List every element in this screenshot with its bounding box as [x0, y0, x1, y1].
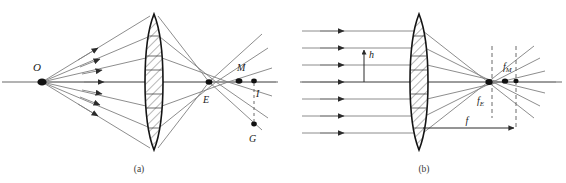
label-I: I [255, 88, 260, 99]
lens-a [145, 14, 163, 150]
spherical-aberration-figure: O E M I G (a) [0, 0, 566, 183]
label-fE-sub: E [479, 100, 485, 108]
label-fM-sub: M [505, 66, 513, 74]
focus-point-fM [502, 78, 508, 83]
label-E: E [202, 94, 209, 105]
label-M: M [236, 62, 246, 73]
lens-b [410, 14, 428, 150]
label-h: h [369, 49, 374, 60]
point-G [251, 122, 257, 127]
focus-point-fE [485, 79, 492, 85]
focal-plane-point [513, 79, 518, 83]
focus-point-M [236, 78, 243, 84]
caption-b: (b) [418, 164, 429, 175]
object-point-O [37, 78, 46, 85]
label-O: O [33, 61, 41, 73]
focus-point-E [206, 79, 213, 85]
image-point-I [251, 79, 257, 84]
label-G: G [249, 133, 256, 144]
figure-root: O E M I G (a) [0, 0, 566, 183]
caption-a: (a) [134, 164, 145, 175]
